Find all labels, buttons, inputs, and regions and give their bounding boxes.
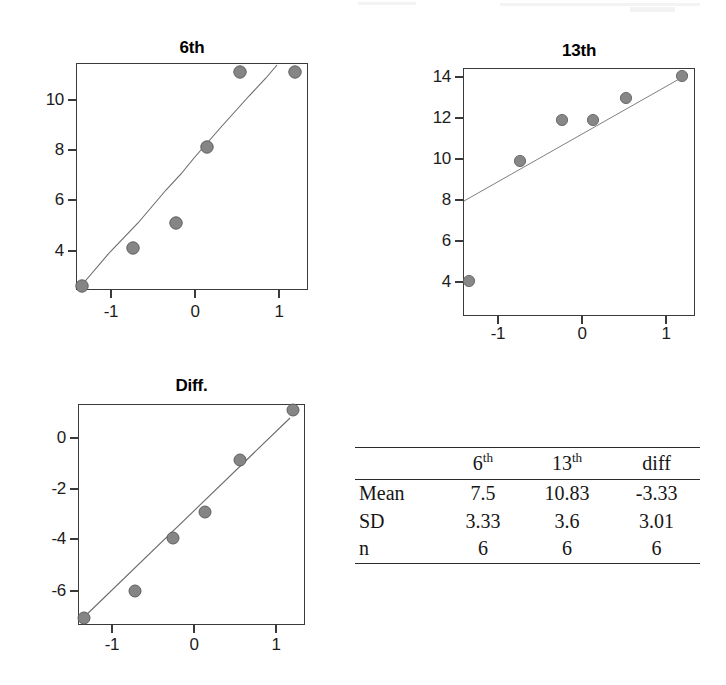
scan-artifact bbox=[630, 7, 675, 12]
ytick-mark bbox=[68, 199, 76, 201]
column-header-13th: 13th bbox=[521, 448, 613, 480]
row-label-mean: Mean bbox=[355, 480, 445, 508]
ytick-label: 14 bbox=[407, 67, 451, 87]
xtick-label: 1 bbox=[271, 635, 280, 655]
ytick-mark bbox=[455, 117, 463, 119]
xtick-mark bbox=[110, 290, 112, 298]
scan-artifact bbox=[358, 2, 416, 5]
row-label-n: n bbox=[355, 535, 445, 563]
xtick-label: 0 bbox=[577, 324, 586, 344]
cell-n-13th: 6 bbox=[521, 535, 613, 563]
data-points-13th bbox=[463, 70, 687, 286]
xtick-label: 1 bbox=[274, 302, 283, 322]
xtick-mark bbox=[275, 625, 277, 633]
cell-mean-6th: 7.5 bbox=[445, 480, 521, 508]
plot-graphics-6th bbox=[0, 24, 360, 334]
summary-statistics-table: 6th 13th diff Mean 7.5 10.83 -3.33 SD 3.… bbox=[355, 447, 700, 564]
reference-line-diff bbox=[81, 418, 290, 620]
xtick-mark bbox=[194, 290, 196, 298]
xtick-mark bbox=[665, 316, 667, 324]
ytick-label: -4 bbox=[22, 529, 66, 549]
cell-mean-diff: -3.33 bbox=[613, 480, 700, 508]
ytick-mark bbox=[455, 76, 463, 78]
xtick-label: 0 bbox=[189, 635, 198, 655]
xtick-label: 0 bbox=[190, 302, 199, 322]
ytick-mark bbox=[70, 538, 78, 540]
xtick-mark bbox=[497, 316, 499, 324]
ytick-label: 6 bbox=[407, 231, 451, 251]
ytick-mark bbox=[70, 590, 78, 592]
chart-panel-13th: 13th 14 12 10 8 6 4 -1 0 1 bbox=[390, 24, 726, 336]
table-row: Mean 7.5 10.83 -3.33 bbox=[355, 480, 700, 508]
xtick-mark bbox=[581, 316, 583, 324]
column-header-6th: 6th bbox=[445, 448, 521, 480]
stats-table: 6th 13th diff Mean 7.5 10.83 -3.33 SD 3.… bbox=[355, 447, 700, 564]
plot-graphics-diff bbox=[0, 364, 360, 664]
ytick-label: 6 bbox=[22, 190, 64, 210]
ytick-mark bbox=[455, 281, 463, 283]
reference-line-13th bbox=[464, 74, 688, 201]
table-row: n 6 6 6 bbox=[355, 535, 700, 563]
chart-panel-diff: Diff. 0 -2 -4 -6 -1 0 1 bbox=[0, 364, 360, 664]
ytick-mark bbox=[68, 99, 76, 101]
table-header-row: 6th 13th diff bbox=[355, 448, 700, 480]
ytick-mark bbox=[68, 250, 76, 252]
ytick-label: 8 bbox=[22, 140, 64, 160]
table-body: Mean 7.5 10.83 -3.33 SD 3.33 3.6 3.01 n … bbox=[355, 480, 700, 563]
ytick-label: 8 bbox=[407, 190, 451, 210]
cell-sd-6th: 3.33 bbox=[445, 508, 521, 535]
ytick-mark bbox=[70, 488, 78, 490]
cell-mean-13th: 10.83 bbox=[521, 480, 613, 508]
xtick-mark bbox=[111, 625, 113, 633]
cell-sd-13th: 3.6 bbox=[521, 508, 613, 535]
xtick-mark bbox=[278, 290, 280, 298]
cell-n-6th: 6 bbox=[445, 535, 521, 563]
scan-artifact bbox=[500, 3, 700, 6]
ytick-label: 10 bbox=[407, 149, 451, 169]
ytick-label: 4 bbox=[407, 272, 451, 292]
ytick-label: 12 bbox=[407, 108, 451, 128]
ytick-label: 4 bbox=[22, 241, 64, 261]
ytick-label: 10 bbox=[22, 90, 64, 110]
cell-sd-diff: 3.01 bbox=[613, 508, 700, 535]
reference-line-6th bbox=[81, 65, 277, 286]
row-label-sd: SD bbox=[355, 508, 445, 535]
xtick-label: 1 bbox=[661, 324, 670, 344]
ytick-mark bbox=[455, 240, 463, 242]
column-header-diff: diff bbox=[613, 448, 700, 480]
ytick-label: 0 bbox=[22, 428, 66, 448]
ytick-label: -6 bbox=[22, 581, 66, 601]
xtick-label: -1 bbox=[104, 302, 119, 322]
table-header: 6th 13th diff bbox=[355, 448, 700, 480]
table-row: SD 3.33 3.6 3.01 bbox=[355, 508, 700, 535]
ytick-mark bbox=[455, 158, 463, 160]
xtick-label: -1 bbox=[491, 324, 506, 344]
data-points-6th bbox=[76, 66, 301, 292]
chart-panel-6th: 6th 10 8 6 4 -1 0 1 bbox=[0, 24, 360, 334]
xtick-label: -1 bbox=[105, 635, 120, 655]
column-header-blank bbox=[355, 448, 445, 480]
ytick-mark bbox=[455, 199, 463, 201]
cell-n-diff: 6 bbox=[613, 535, 700, 563]
ytick-mark bbox=[68, 149, 76, 151]
xtick-mark bbox=[193, 625, 195, 633]
ytick-mark bbox=[70, 437, 78, 439]
ytick-label: -2 bbox=[22, 479, 66, 499]
